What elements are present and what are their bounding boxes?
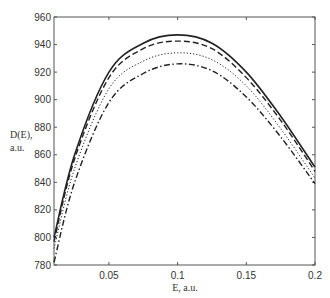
y-tick-label: 800: [34, 232, 51, 243]
series-line-solid: [54, 35, 315, 238]
x-axis-ticks: 0.050.10.150.2: [99, 17, 322, 281]
y-axis-unit: a.u.: [10, 142, 24, 153]
y-tick-label: 820: [34, 204, 51, 215]
y-axis-ticks: 780800820840860880900920940960: [34, 12, 315, 271]
x-axis-label: E, a.u.: [172, 282, 198, 293]
axes-frame: [54, 17, 315, 265]
y-tick-label: 860: [34, 149, 51, 160]
y-tick-label: 960: [34, 12, 51, 23]
series-line-dashed: [54, 41, 315, 241]
x-tick-label: 0.05: [99, 270, 119, 281]
chart: 0.050.10.150.2 7808008208408608809009209…: [0, 0, 330, 298]
y-tick-label: 940: [34, 39, 51, 50]
plot-area: [54, 17, 315, 265]
x-tick-label: 0.2: [308, 270, 322, 281]
y-tick-label: 840: [34, 177, 51, 188]
y-tick-label: 780: [34, 260, 51, 271]
series-line-dotted: [54, 53, 315, 249]
series-lines: [54, 35, 315, 262]
y-tick-label: 880: [34, 122, 51, 133]
y-tick-label: 920: [34, 67, 51, 78]
x-tick-label: 0.1: [171, 270, 185, 281]
series-line-dash-dot: [54, 64, 315, 262]
y-axis-label: D(E),: [10, 129, 33, 141]
x-tick-label: 0.15: [237, 270, 257, 281]
y-tick-label: 900: [34, 94, 51, 105]
